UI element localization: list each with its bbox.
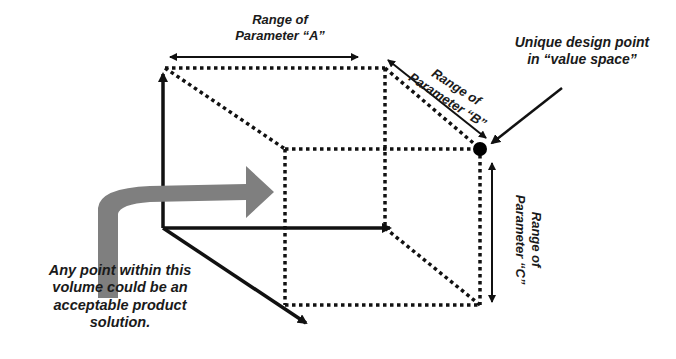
volume-caption: Any point within this volume could be an… — [10, 262, 230, 332]
volume-caption-line4: solution. — [10, 314, 230, 331]
unique-design-point — [473, 142, 487, 156]
range-c-label-line1: Range of — [528, 170, 544, 310]
unique-point-label: Unique design point in “value space” — [488, 34, 676, 68]
volume-caption-line1: Any point within this — [10, 262, 230, 279]
range-a-label-line2: Parameter “A” — [190, 28, 370, 44]
range-c-label: Range of Parameter “C” — [512, 170, 543, 310]
unique-point-label-line2: in “value space” — [488, 51, 676, 68]
range-a-label: Range of Parameter “A” — [190, 12, 370, 43]
volume-caption-line2: volume could be an — [10, 279, 230, 296]
unique-point-label-line1: Unique design point — [488, 34, 676, 51]
range-c-label-line2: Parameter “C” — [512, 170, 528, 310]
range-a-label-line1: Range of — [190, 12, 370, 28]
volume-caption-line3: acceptable product — [10, 297, 230, 314]
